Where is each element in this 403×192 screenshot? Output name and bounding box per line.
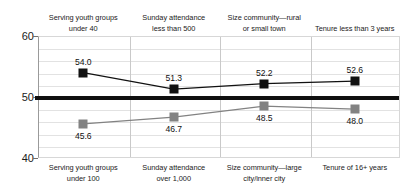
top-label-3-line2: or small town xyxy=(243,24,286,33)
bottom-label-1-line1: Serving youth groups xyxy=(49,163,118,172)
series-lines xyxy=(38,36,400,158)
marker-lower-4 xyxy=(350,105,359,114)
top-label-1-line2: under 40 xyxy=(69,24,98,33)
value-label-lower-2: 46.7 xyxy=(165,124,182,134)
marker-upper-2 xyxy=(169,85,178,94)
value-label-lower-1: 45.6 xyxy=(75,131,92,141)
marker-lower-3 xyxy=(260,102,269,111)
marker-lower-1 xyxy=(79,119,88,128)
y-tick-label-50: 50 xyxy=(4,91,34,103)
top-category-labels: Serving youth groups under 40 Sunday att… xyxy=(38,2,400,34)
bottom-label-3-line1: Size community—large xyxy=(227,163,302,172)
y-tick-label-60: 60 xyxy=(4,30,34,42)
bottom-label-1: Serving youth groups under 100 xyxy=(38,163,129,191)
top-label-4: Tenure less than 3 years xyxy=(310,24,401,35)
bottom-label-1-line2: under 100 xyxy=(67,174,100,183)
top-label-2: Sunday attendance less than 500 xyxy=(129,13,220,34)
y-tick-mark-40 xyxy=(33,158,38,159)
bottom-label-2-line1: Sunday attendance xyxy=(142,163,205,172)
value-label-lower-4: 48.0 xyxy=(346,116,363,126)
bottom-category-labels: Serving youth groups under 100 Sunday at… xyxy=(38,163,400,191)
bottom-label-2: Sunday attendance over 1,000 xyxy=(129,163,220,191)
top-label-1: Serving youth groups under 40 xyxy=(38,13,129,34)
chart-container: Serving youth groups under 40 Sunday att… xyxy=(0,0,403,192)
bottom-label-4: Tenure of 16+ years xyxy=(310,163,401,191)
bottom-label-4-line1: Tenure of 16+ years xyxy=(322,163,387,172)
marker-upper-4 xyxy=(350,77,359,86)
top-label-1-line1: Serving youth groups xyxy=(49,13,118,22)
y-tick-label-40: 40 xyxy=(4,152,34,164)
marker-upper-3 xyxy=(260,79,269,88)
marker-upper-1 xyxy=(79,68,88,77)
value-label-lower-3: 48.5 xyxy=(256,113,273,123)
top-label-2-line2: less than 500 xyxy=(152,24,195,33)
marker-lower-2 xyxy=(169,113,178,122)
series-line-upper xyxy=(83,73,355,89)
series-line-lower xyxy=(83,106,355,124)
top-label-4-line1: Tenure less than 3 years xyxy=(315,24,394,33)
value-label-upper-1: 54.0 xyxy=(75,57,92,67)
value-label-upper-4: 52.6 xyxy=(346,65,363,75)
top-label-3: Size community—rural or small town xyxy=(219,13,310,34)
value-label-upper-2: 51.3 xyxy=(165,73,182,83)
bottom-label-3-line2: city/inner city xyxy=(243,174,285,183)
value-label-upper-3: 52.2 xyxy=(256,68,273,78)
top-label-3-line1: Size community—rural xyxy=(228,13,301,22)
bottom-label-2-line2: over 1,000 xyxy=(157,174,191,183)
top-label-2-line1: Sunday attendance xyxy=(142,13,205,22)
bottom-label-3: Size community—large city/inner city xyxy=(219,163,310,191)
